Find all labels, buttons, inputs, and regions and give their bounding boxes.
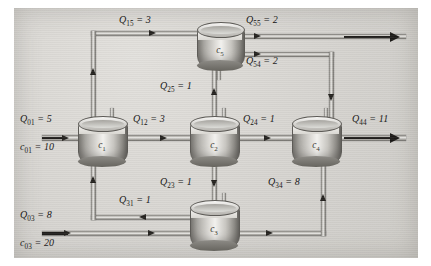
arrow-q15-riser-icon [90,68,96,75]
reactor-c5-rim [197,22,245,38]
arrow-stem-q55 [344,36,394,39]
label-q54: Q54 = 2 [246,55,278,69]
arrow-q15-icon [149,30,156,36]
arrow-stem-q44 [344,137,394,140]
arrow-q31-icon [139,214,146,220]
label-q03: Q03 = 8 [20,209,52,223]
reactor-c2-base [190,156,238,167]
label-c01: c01 = 10 [20,141,54,155]
arrow-q25-icon [211,88,217,95]
arrow-q24-icon [264,135,271,141]
pipe-q15-riser [91,31,96,128]
reactor-c5-base [197,60,243,71]
diagram-plate: c5 c1 c2 c4 c3 [14,8,418,258]
reactor-c3-label: c3 [190,224,238,237]
label-q31: Q31 = 1 [119,194,151,208]
pipe-q34-horizontal [228,231,326,236]
reactor-c2[interactable]: c2 [190,116,238,162]
reactor-c1-base [78,156,126,167]
reactor-c3[interactable]: c3 [190,200,238,246]
label-q23: Q23 = 1 [160,176,192,190]
reactor-c1[interactable]: c1 [78,116,126,162]
label-q12: Q12 = 3 [133,113,165,127]
arrow-q03-inlet-icon [64,230,71,236]
reactor-c4-label: c4 [292,140,340,153]
reactor-c3-base [190,240,238,251]
pipe-q12 [118,135,200,141]
label-c03: c03 = 20 [20,237,54,251]
figure-canvas: c5 c1 c2 c4 c3 [0,0,431,266]
arrow-q54-down-icon [328,94,334,101]
reactor-c1-label: c1 [78,140,126,153]
label-q15: Q15 = 3 [119,14,151,28]
label-q44: Q44 = 11 [352,113,388,127]
reactor-c5[interactable]: c5 [197,22,243,66]
label-q34: Q34 = 8 [268,176,300,190]
label-q25: Q25 = 1 [160,80,192,94]
label-q55: Q55 = 2 [246,14,278,28]
arrow-q12-icon [160,135,167,141]
reactor-c4-rim [292,116,342,132]
arrow-q23-icon [211,180,217,187]
reactor-c1-rim [78,116,128,132]
reactor-c3-rim [190,200,240,216]
reactor-c5-label: c5 [197,45,243,58]
label-q24: Q24 = 1 [243,113,275,127]
reactor-c4[interactable]: c4 [292,116,340,162]
label-q01: Q01 = 5 [20,113,52,127]
reactor-c2-label: c2 [190,140,238,153]
arrow-q55-near-icon [254,33,261,39]
arrow-q34-riser-icon [320,194,326,201]
arrow-q34-icon [266,230,273,236]
arrow-q03-icon [148,230,155,236]
reactor-c2-rim [190,116,240,132]
arrow-q31-riser-icon [90,176,96,183]
arrow-q01-inlet-icon [62,135,69,141]
reactor-c4-base [292,156,340,167]
